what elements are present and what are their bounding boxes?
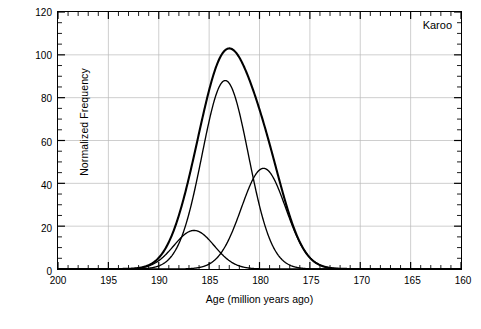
plot-area: Karoo Normalized Frequency Age (million … bbox=[57, 11, 462, 270]
x-tick-label: 165 bbox=[404, 275, 421, 286]
figure-caption bbox=[2, 319, 302, 328]
y-tick-label: 120 bbox=[35, 7, 52, 18]
y-tick-label: 40 bbox=[41, 179, 52, 190]
y-axis-title: Normalized Frequency bbox=[78, 22, 90, 222]
curve-group bbox=[58, 12, 461, 269]
x-tick-label: 185 bbox=[202, 275, 219, 286]
x-tick-label: 160 bbox=[455, 275, 472, 286]
y-tick-label: 60 bbox=[41, 136, 52, 147]
y-tick-label: 80 bbox=[41, 93, 52, 104]
y-tick-label: 100 bbox=[35, 50, 52, 61]
figure-chart: Karoo Normalized Frequency Age (million … bbox=[0, 0, 481, 329]
x-tick-label: 190 bbox=[151, 275, 168, 286]
x-tick-label: 175 bbox=[303, 275, 320, 286]
x-axis-title: Age (million years ago) bbox=[58, 293, 461, 305]
y-tick-label: 20 bbox=[41, 222, 52, 233]
x-tick-label: 180 bbox=[252, 275, 269, 286]
x-tick-label: 195 bbox=[100, 275, 117, 286]
x-tick-label: 200 bbox=[50, 275, 67, 286]
x-tick-label: 170 bbox=[353, 275, 370, 286]
plot-annotation-label: Karoo bbox=[423, 19, 452, 31]
